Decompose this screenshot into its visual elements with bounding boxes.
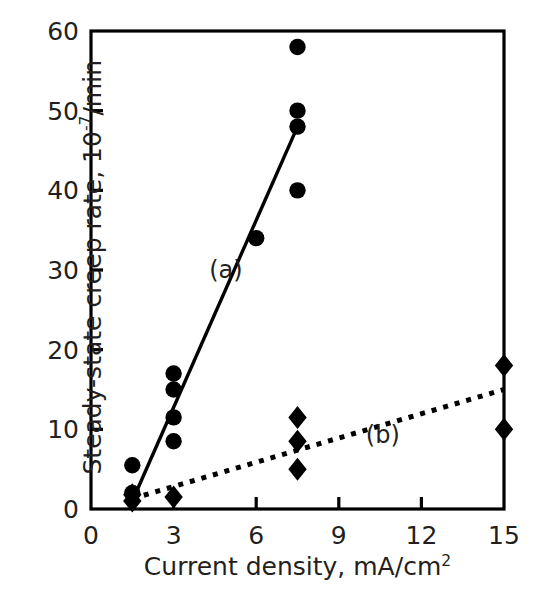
x-tick-label: 9: [331, 523, 347, 548]
data-point-circle: [289, 182, 305, 198]
fit-line-b: [132, 390, 504, 499]
data-point-diamond: [288, 406, 306, 429]
y-tick-label: 50: [20, 98, 79, 123]
x-tick-label: 15: [488, 523, 520, 548]
x-tick-label: 3: [166, 523, 182, 548]
chart-figure: 0102030405060 03691215 Steady-state cree…: [0, 0, 536, 592]
fit-line-a: [132, 127, 297, 501]
data-point-circle: [165, 365, 181, 381]
y-axis-title-main: Steady-state creep rate, 10: [78, 131, 107, 474]
series-label-b: (b): [366, 421, 400, 449]
y-tick-label: 60: [20, 19, 79, 44]
y-tick-label: 0: [20, 497, 79, 522]
y-axis-title-exponent: -7: [77, 116, 95, 131]
y-tick-label: 10: [20, 417, 79, 442]
data-point-diamond: [495, 354, 513, 377]
data-point-diamond: [288, 458, 306, 481]
data-point-circle: [289, 102, 305, 118]
x-axis-title-main: Current density, mA/cm: [144, 552, 441, 581]
data-point-circle: [165, 433, 181, 449]
series-label-a: (a): [209, 256, 242, 284]
x-tick-label: 12: [405, 523, 437, 548]
x-tick-label: 0: [83, 523, 99, 548]
x-axis-title-exponent: 2: [441, 552, 451, 570]
data-point-circle: [165, 409, 181, 425]
x-axis-title: Current density, mA/cm2: [91, 552, 504, 581]
data-point-circle: [248, 230, 264, 246]
y-axis-title: Steady-state creep rate, 10-7/min: [78, 95, 107, 475]
data-point-diamond: [495, 418, 513, 441]
y-tick-label: 20: [20, 337, 79, 362]
fit-lines: [132, 127, 504, 501]
y-axis-title-tail: /min: [78, 60, 107, 116]
data-point-circle: [289, 39, 305, 55]
data-point-diamond: [288, 430, 306, 453]
data-point-circle: [124, 457, 140, 473]
data-markers: [123, 39, 513, 513]
y-tick-label: 40: [20, 178, 79, 203]
data-point-circle: [165, 381, 181, 397]
y-tick-label: 30: [20, 258, 79, 283]
data-point-circle: [289, 118, 305, 134]
axis-ticks: [91, 111, 421, 509]
x-tick-label: 6: [248, 523, 264, 548]
